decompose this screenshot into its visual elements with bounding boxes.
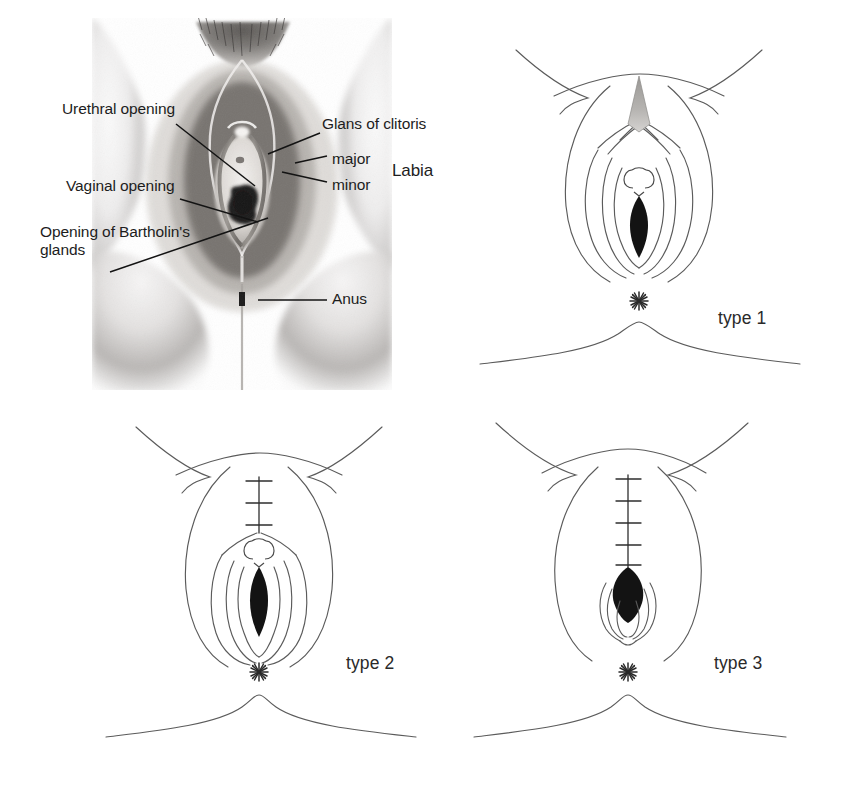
type3-caption: type 3 — [714, 653, 762, 674]
labia-majora-right — [652, 150, 693, 278]
label-vaginal-opening: Vaginal opening — [66, 177, 175, 195]
label-labia: Labia — [392, 161, 433, 181]
prepuce-fold-left-inner — [608, 126, 638, 154]
urethral-opening-circle-2 — [265, 541, 274, 559]
figure-root: Urethral opening Vaginal opening Opening… — [0, 0, 851, 807]
anatomy-photograph — [0, 0, 460, 410]
vaginal-opening — [630, 196, 648, 258]
suture-line-group — [246, 477, 272, 533]
anus-starburst-icon — [250, 663, 268, 681]
label-anus: Anus — [332, 290, 367, 308]
labia-minora-left — [602, 158, 634, 274]
label-bartholin-glands: Opening of Bartholin's glands — [40, 223, 190, 260]
label-labia-minor: minor — [332, 176, 370, 194]
labia-minora-right — [644, 158, 676, 274]
label-labia-major: major — [332, 150, 370, 168]
thigh-right-line — [690, 50, 762, 114]
type2-diagram-panel: type 2 — [110, 415, 470, 800]
type1-caption: type 1 — [718, 308, 766, 329]
type2-line-drawing — [110, 415, 470, 800]
urethral-opening-circle — [624, 170, 633, 188]
urethral-opening-top — [252, 539, 266, 541]
labia-majora-right — [268, 555, 307, 665]
labia-majora-left — [211, 555, 250, 665]
type3-diagram-panel: type 3 — [470, 415, 830, 800]
prepuce-fold-right-inner — [640, 126, 670, 154]
fused-shoulder-left — [222, 533, 257, 555]
anus-starburst-icon — [619, 663, 637, 681]
vulva-outline-right — [288, 467, 333, 667]
urethral-opening-top — [632, 168, 646, 170]
urethral-opening-circle-2 — [645, 170, 654, 188]
introitus-base — [620, 641, 636, 645]
thigh-right-line — [668, 423, 748, 491]
thigh-left-line — [496, 423, 576, 491]
type1-diagram-panel: type 1 — [470, 20, 851, 395]
anus-starburst-icon — [630, 292, 648, 310]
type1-line-drawing — [470, 20, 851, 395]
thigh-left-line — [136, 427, 210, 493]
type3-line-drawing — [470, 415, 830, 800]
vulva-outline-right — [658, 467, 701, 661]
label-urethral-opening: Urethral opening — [62, 100, 175, 118]
label-glans-of-clitoris: Glans of clitoris — [322, 115, 426, 133]
perineum-wave — [106, 695, 416, 737]
urethral-tail — [634, 192, 644, 196]
urethral-opening-circle — [244, 541, 253, 559]
fused-shoulder-right — [261, 533, 296, 555]
urethral-tail — [254, 563, 264, 567]
suture-line-group — [616, 475, 641, 567]
vulva-outline-left — [185, 467, 230, 667]
pubic-triangle — [628, 76, 650, 132]
thigh-left-line — [516, 50, 588, 114]
type2-caption: type 2 — [346, 653, 394, 674]
mons-arch — [176, 453, 342, 475]
thigh-right-line — [308, 427, 382, 493]
labia-majora-left — [585, 150, 626, 278]
anatomy-photograph-panel: Urethral opening Vaginal opening Opening… — [0, 0, 460, 410]
vaginal-opening — [250, 567, 268, 637]
perineum-wave — [474, 695, 786, 737]
vulva-outline-left — [555, 467, 598, 661]
